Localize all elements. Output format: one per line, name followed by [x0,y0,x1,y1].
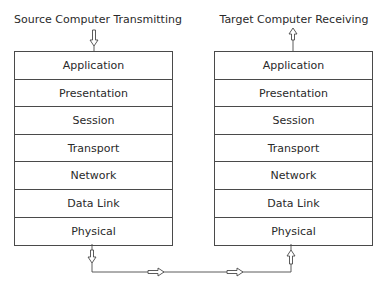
up-arrow-icon [287,250,295,264]
down-arrow-icon [90,30,98,46]
up-arrow-icon [289,28,297,40]
right-arrow-icon [148,268,164,276]
connector-arrows [0,0,386,285]
down-arrow-icon [88,250,96,263]
right-arrow-icon [227,268,243,276]
